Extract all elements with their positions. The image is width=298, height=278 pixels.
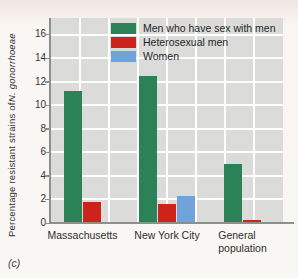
y-tick-label: 2 — [26, 194, 46, 204]
y-axis-label: Percentage resistant strains of N. gonor… — [4, 14, 18, 256]
legend-swatch-0 — [111, 23, 136, 34]
gridline-v — [108, 18, 110, 223]
y-tick-mark — [45, 105, 49, 107]
bar-chart-figure: Percentage resistant strains of N. gonor… — [0, 0, 298, 278]
bar-series-2-category-1 — [177, 196, 195, 223]
bar-series-1-category-1 — [158, 204, 176, 223]
y-tick-mark — [45, 175, 49, 177]
legend-label-0: Men who have sex with men — [136, 22, 275, 34]
y-tick-mark — [45, 34, 49, 36]
y-tick-label: 6 — [26, 147, 46, 157]
x-category-label-1: New York City — [134, 229, 199, 242]
y-axis-line — [49, 18, 51, 224]
y-tick-mark — [45, 128, 49, 130]
legend-item-2: Women — [111, 50, 275, 62]
y-tick-mark — [45, 152, 49, 154]
panel-label: (c) — [8, 257, 20, 269]
x-category-label-0: Massachusetts — [47, 229, 117, 242]
y-tick-label: 4 — [26, 171, 46, 181]
y-tick-label: 8 — [26, 124, 46, 134]
y-axis-label-main: Percentage resistant strains of — [6, 102, 17, 237]
legend-item-1: Heterosexual men — [111, 36, 275, 48]
y-tick-label: 10 — [26, 100, 46, 110]
y-tick-mark — [45, 199, 49, 201]
legend-label-1: Heterosexual men — [136, 36, 228, 48]
y-tick-label: 0 — [26, 218, 46, 228]
bar-series-0-category-1 — [139, 76, 157, 223]
legend-swatch-2 — [111, 51, 136, 62]
y-tick-label: 16 — [26, 29, 46, 39]
bar-series-0-category-0 — [64, 91, 82, 223]
plot-area: Men who have sex with menHeterosexual me… — [51, 18, 283, 223]
y-tick-mark — [45, 81, 49, 83]
bar-series-1-category-0 — [83, 202, 101, 223]
x-axis-line — [49, 222, 294, 224]
legend-swatch-1 — [111, 37, 136, 48]
y-tick-label: 14 — [26, 53, 46, 63]
bar-series-0-category-2 — [224, 164, 242, 223]
legend: Men who have sex with menHeterosexual me… — [111, 22, 275, 64]
y-axis-label-species: N. gonorrhoeae — [6, 33, 17, 102]
y-tick-label: 12 — [26, 77, 46, 87]
y-tick-mark — [45, 58, 49, 60]
y-tick-mark — [45, 223, 49, 225]
x-category-label-2: General population — [218, 229, 266, 255]
legend-item-0: Men who have sex with men — [111, 22, 275, 34]
legend-label-2: Women — [136, 50, 179, 62]
